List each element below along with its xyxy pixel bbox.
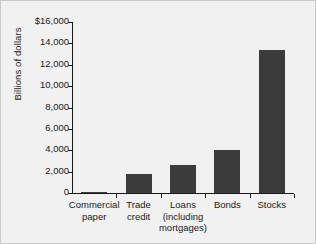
x-axis-tick-mark [161, 194, 162, 198]
y-axis-tick-label: 14,000 [40, 36, 69, 47]
bar [81, 192, 107, 194]
y-axis-line [72, 22, 73, 194]
y-axis-tick-label: 4,000 [45, 143, 69, 154]
bar [170, 165, 196, 193]
y-axis-tick-label: 0 [64, 186, 69, 197]
bar [259, 50, 285, 193]
y-axis-tick-label: 2,000 [45, 165, 69, 176]
x-axis-tick-mark [294, 194, 295, 198]
x-axis-tick-mark [205, 194, 206, 198]
y-axis-tick-label: 6,000 [45, 122, 69, 133]
x-axis-line [72, 193, 294, 194]
y-axis-tick-label: 10,000 [40, 79, 69, 90]
x-axis-tick-mark [250, 194, 251, 198]
x-axis-category-label: Stocks [244, 199, 300, 211]
y-axis-title: Billions of dollars [10, 9, 26, 119]
bar-chart-figure: Billions of dollars 02,0004,0006,0008,00… [0, 0, 316, 244]
y-axis-tick-label: $16,000 [35, 15, 69, 26]
bar [126, 174, 152, 193]
x-axis-tick-mark [116, 194, 117, 198]
bar [214, 150, 240, 193]
plot-area: 02,0004,0006,0008,00010,00012,00014,000$… [72, 22, 294, 194]
y-axis-tick-label: 12,000 [40, 58, 69, 69]
y-axis-tick-label: 8,000 [45, 101, 69, 112]
